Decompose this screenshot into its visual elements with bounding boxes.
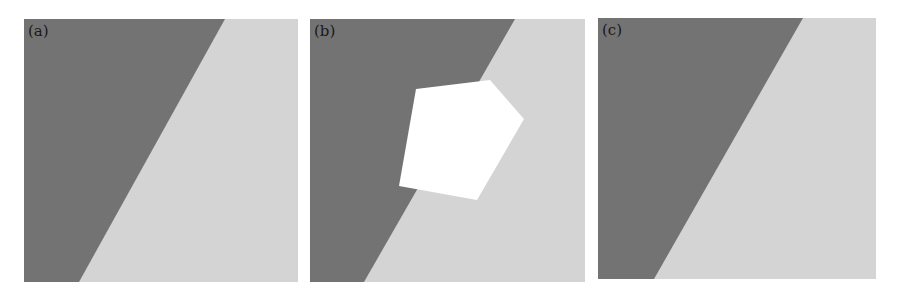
panel-label-b: (b) <box>314 22 335 40</box>
panel-c: (c) <box>598 18 876 279</box>
panel-label-a: (a) <box>28 22 49 40</box>
panel-a-image <box>24 19 298 282</box>
panel-a: (a) <box>24 19 298 282</box>
panel-c-image <box>598 18 876 279</box>
panel-b: (b) <box>310 19 585 282</box>
panel-label-c: (c) <box>602 21 622 39</box>
panel-b-image <box>310 19 585 282</box>
